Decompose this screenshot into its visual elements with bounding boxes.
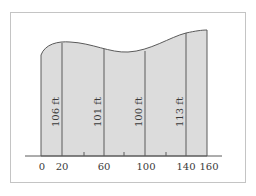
strip-label: 101 ft <box>92 97 103 127</box>
shaded-region <box>41 30 207 156</box>
region-diagram: 106 ft 101 ft 100 ft 113 ft 0 20 60 100 … <box>0 0 256 196</box>
strip-label: 106 ft <box>50 97 61 127</box>
tick-label: 100 <box>136 161 155 172</box>
tick-label: 0 <box>39 161 45 172</box>
tick-label: 140 <box>176 161 195 172</box>
tick-label: 20 <box>56 161 69 172</box>
tick-label: 160 <box>199 161 218 172</box>
strip-label: 100 ft <box>133 97 144 127</box>
tick-label: 60 <box>98 161 111 172</box>
strip-label: 113 ft <box>174 97 185 127</box>
